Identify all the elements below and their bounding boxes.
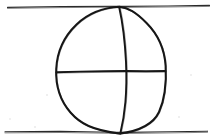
sketch-svg	[0, 0, 214, 140]
horizontal-equator-line-echo	[56, 72, 165, 73]
sketch-canvas	[0, 0, 214, 140]
paper-background	[0, 0, 214, 140]
